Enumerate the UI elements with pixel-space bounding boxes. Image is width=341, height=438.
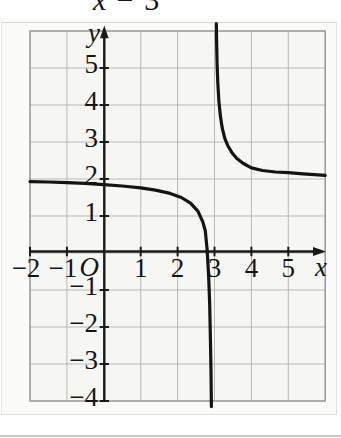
x-tick-label: 1 (134, 253, 148, 283)
x-tick-label: 2 (171, 253, 185, 283)
x-tick-label: 5 (282, 253, 296, 283)
y-tick-label: 3 (85, 123, 99, 153)
graph-canvas: y x O −2−11234554321−1−2−3−4 (0, 0, 341, 438)
x-tick-label: 3 (208, 253, 222, 283)
x-axis-letter: x (314, 252, 327, 282)
y-axis-letter: y (85, 18, 100, 48)
y-tick-label: 4 (85, 86, 99, 116)
figure: x − 3 y x O −2−11234554321−1−2−3−4 (0, 0, 341, 438)
y-tick-label: −3 (69, 345, 98, 375)
y-tick-label: −2 (69, 308, 98, 338)
x-tick-label: 4 (245, 253, 259, 283)
y-tick-label: −1 (69, 271, 98, 301)
y-tick-label: −4 (69, 382, 98, 412)
photo-bottom-edge (0, 435, 341, 437)
y-tick-label: 5 (85, 49, 99, 79)
y-tick-label: 1 (85, 197, 99, 227)
x-tick-label: −2 (12, 253, 41, 283)
y-tick-label: 2 (85, 160, 99, 190)
